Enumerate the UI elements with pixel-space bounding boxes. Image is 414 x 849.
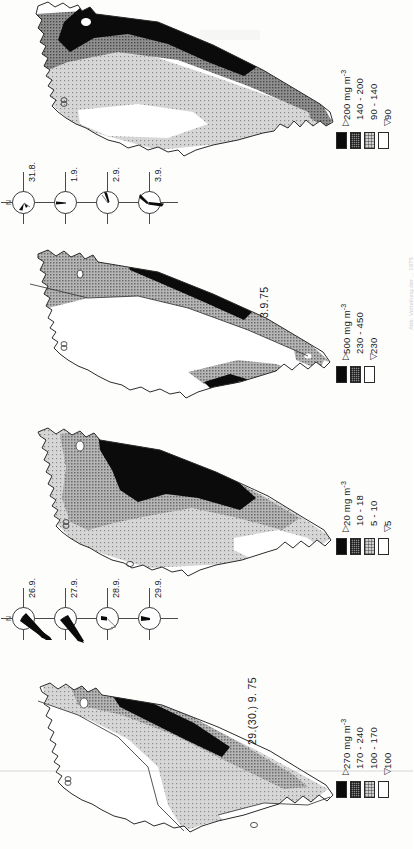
legend3-marker-less: ▽ <box>382 525 392 532</box>
wind-rose-date-28-9: 28.9. <box>111 578 121 598</box>
legend2-label-1-exp: -3 <box>340 304 347 311</box>
wind-rose-date-26-9: 26.9. <box>27 578 37 598</box>
map-2-svg <box>8 232 338 412</box>
legend4-label-2: 170 - 240 <box>354 727 365 769</box>
legend4-label-1: 270 mg m-3 <box>340 719 352 769</box>
legend3-label-2: 10 - 18 <box>354 495 365 526</box>
legend4-label-1-text: 270 mg m <box>341 725 352 769</box>
legend-marker-less: ▽ <box>382 119 392 126</box>
legend-marker-greater: ▷ <box>340 119 350 126</box>
legend-label-3: 90 - 140 <box>368 84 379 120</box>
wind-row-top: 31.8. N 1.9. <box>0 152 180 222</box>
legend2-label-1: 500 mg m-3 <box>340 304 352 354</box>
legend3-label-1-exp: -3 <box>340 481 347 488</box>
legend3-swatch-light <box>364 538 375 555</box>
scan-artifact-line <box>0 770 413 772</box>
wind-vector-27-9 <box>54 607 98 647</box>
wind-vector-29-9 <box>138 607 164 633</box>
legend4-swatch-dark <box>350 781 361 798</box>
legend3-label-1: 20 mg m-3 <box>340 481 352 526</box>
legend4-swatch-white <box>378 781 389 798</box>
map-panel-2 <box>8 232 338 412</box>
legend3-marker-greater: ▷ <box>340 525 350 532</box>
wind-vector-2-9 <box>96 191 120 215</box>
class-black-island <box>216 146 256 162</box>
north-label-bottom: N <box>5 616 12 621</box>
legend-swatch-light <box>364 132 375 149</box>
legend2-swatch-white <box>364 366 375 383</box>
legend-swatch-dark <box>350 132 361 149</box>
wind-vector-28-9 <box>96 607 122 633</box>
legend2-swatch-dark <box>350 366 361 383</box>
map-panel-4 <box>8 655 338 849</box>
legend-label-1-text: 200 mg m <box>341 76 352 120</box>
legend-swatch-white <box>378 132 389 149</box>
map-1-svg <box>8 0 338 175</box>
legend3-swatch-dark <box>350 538 361 555</box>
legend2-marker-less: ▽ <box>368 353 378 360</box>
wind-rose-date-2-9: 2.9. <box>111 167 121 182</box>
panel-4-date: 29.(30.) 9. 75 <box>246 677 258 745</box>
legend3-label-4: 5 <box>382 521 393 526</box>
legend4-label-4: 100 <box>382 753 393 769</box>
legend2-swatch-black <box>336 366 347 383</box>
wind-vector-1-9 <box>54 191 78 215</box>
legend-label-1: 200 mg m-3 <box>340 70 352 120</box>
scan-artifact-spot <box>200 30 260 40</box>
edge-caption: Abb. Verteilung der ... 1975 <box>408 257 414 330</box>
legend4-label-3: 100 - 170 <box>368 727 379 769</box>
wind-vector-31-8 <box>12 191 36 215</box>
wind-rose-date-29-9: 29.9. <box>153 578 163 598</box>
wind-row-bottom: 26.9. N 27.9. <box>0 562 180 642</box>
wind-rose-date-3-9: 3.9. <box>153 167 163 182</box>
legend-label-1-exp: -3 <box>340 70 347 77</box>
legend4-swatch-light <box>364 781 375 798</box>
legend-swatch-black <box>336 132 347 149</box>
legend3-swatch-white <box>378 538 389 555</box>
legend3-label-3: 5 - 10 <box>368 501 379 527</box>
legend2-label-3: 230 <box>368 338 379 354</box>
legend2-marker-greater: ▷ <box>340 353 350 360</box>
legend4-label-1-exp: -3 <box>340 719 347 726</box>
legend3-label-1-text: 20 mg m <box>341 488 352 526</box>
legend2-label-2: 230 - 450 <box>354 312 365 354</box>
legend3-swatch-black <box>336 538 347 555</box>
legend2-label-1-text: 500 mg m <box>341 310 352 354</box>
wind-rose-date-31-8: 31.8. <box>27 162 37 182</box>
panel-2-date: 3.9.75 <box>258 286 270 318</box>
north-label-top: N <box>5 200 12 205</box>
legend-label-2: 140 - 200 <box>354 78 365 120</box>
map-panel-1 <box>8 0 338 175</box>
map-4-svg <box>8 655 338 849</box>
legend-label-4: 90 <box>382 109 393 120</box>
wind-rose-date-27-9: 27.9. <box>69 578 79 598</box>
legend4-swatch-black <box>336 781 347 798</box>
wind-rose-date-1-9: 1.9. <box>69 167 79 182</box>
wind-vector-3-9 <box>138 191 168 215</box>
